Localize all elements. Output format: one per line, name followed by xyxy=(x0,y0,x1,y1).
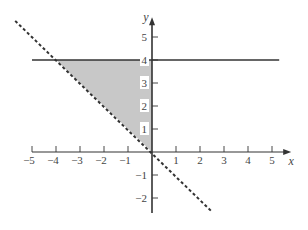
x-tick-label: 4 xyxy=(245,154,251,166)
axes xyxy=(32,17,291,213)
y-tick-label: 2 xyxy=(142,100,148,112)
y-tick-label: 5 xyxy=(142,31,148,43)
x-tick-label: −5 xyxy=(23,154,35,166)
coordinate-plane: −5−4−3−2−112345−2−112345xy xyxy=(0,0,308,230)
y-tick-label: −1 xyxy=(135,169,147,181)
x-tick-label: −1 xyxy=(119,154,131,166)
x-axis-label: x xyxy=(288,154,295,168)
x-tick-label: −2 xyxy=(95,154,107,166)
y-tick-label: 4 xyxy=(142,54,148,66)
y-tick-label: 1 xyxy=(142,123,148,135)
x-tick-label: −3 xyxy=(71,154,83,166)
x-tick-label: −4 xyxy=(47,154,59,166)
y-axis-arrow-icon xyxy=(149,17,155,25)
y-axis-label: y xyxy=(142,10,149,24)
y-tick-label: 3 xyxy=(142,77,148,89)
x-tick-label: 1 xyxy=(173,154,179,166)
x-tick-label: 2 xyxy=(197,154,203,166)
y-tick-label: −2 xyxy=(135,192,147,204)
dashed-line-y-eq-neg-x xyxy=(15,21,212,212)
x-tick-label: 5 xyxy=(269,154,275,166)
tick-labels: −5−4−3−2−112345−2−112345xy xyxy=(23,10,294,204)
x-tick-label: 3 xyxy=(221,154,227,166)
